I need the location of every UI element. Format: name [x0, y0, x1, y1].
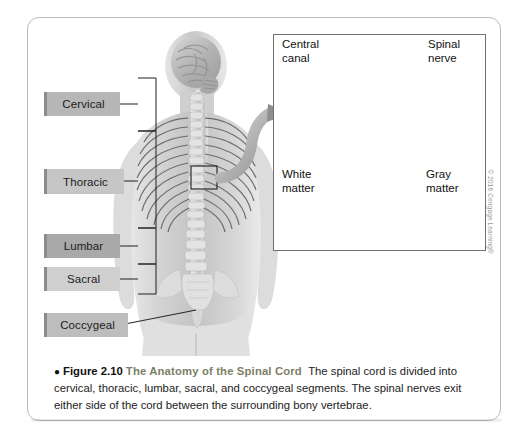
figure-caption: ●Figure 2.10 The Anatomy of the Spinal C…: [54, 363, 478, 413]
segment-label-lumbar-text: Lumbar: [64, 240, 104, 252]
inset-label-gray-matter: Gray matter: [426, 168, 459, 195]
segment-label-cervical-text: Cervical: [62, 98, 104, 110]
segment-label-thoracic-text: Thoracic: [63, 176, 108, 188]
vertebra-inset-frame: [273, 34, 486, 251]
caption-figure-number: Figure 2.10: [63, 365, 123, 377]
segment-label-coccygeal[interactable]: Coccygeal: [44, 313, 128, 337]
segment-label-sacral[interactable]: Sacral: [44, 267, 120, 291]
inset-label-spinal-nerve: Spinal nerve: [428, 38, 460, 65]
figure-card: Cervical Thoracic Lumbar Sacral Coccygea…: [27, 17, 501, 421]
segment-label-cervical[interactable]: Cervical: [44, 92, 120, 116]
caption-bullet-icon: ●: [54, 366, 60, 377]
inset-label-central-canal: Central canal: [282, 38, 319, 65]
caption-title: The Anatomy of the Spinal Cord: [126, 365, 302, 377]
inset-label-white-matter: White matter: [282, 168, 315, 195]
copyright-notice: © 2016 Cengage Learning®: [487, 169, 494, 254]
segment-label-lumbar[interactable]: Lumbar: [44, 234, 120, 258]
segment-label-sacral-text: Sacral: [67, 273, 100, 285]
segment-label-coccygeal-text: Coccygeal: [60, 319, 115, 331]
segment-label-thoracic[interactable]: Thoracic: [44, 169, 124, 194]
